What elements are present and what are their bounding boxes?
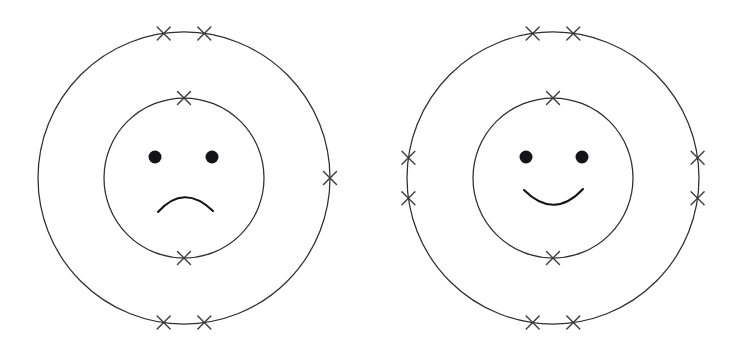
atom-sad: [38, 27, 337, 329]
bohr-model-diagram: [0, 0, 738, 356]
face-eye-right: [576, 151, 589, 164]
electron-outer-shell-ring: [407, 32, 699, 324]
atom-happy: [402, 27, 704, 329]
electron-inner-shell-ring: [473, 98, 633, 258]
atoms-layer: [38, 27, 704, 329]
face-eye-left: [520, 151, 533, 164]
face-mouth-frown: [158, 197, 213, 212]
electron-inner-shell-ring: [104, 98, 264, 258]
face-eye-left: [149, 151, 162, 164]
face-eye-right: [206, 151, 219, 164]
atom-diagram-canvas: [0, 0, 738, 356]
face-mouth-smile: [524, 189, 583, 205]
electron-outer-shell-ring: [38, 32, 330, 324]
